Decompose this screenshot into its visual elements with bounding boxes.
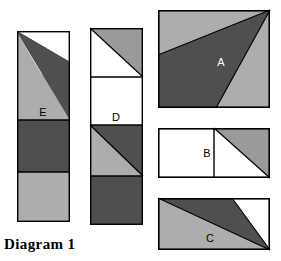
- shape-E: E: [17, 31, 70, 222]
- shape-A: A: [158, 10, 270, 108]
- diagram-caption: Diagram 1: [4, 236, 76, 253]
- shape-C-label: C: [206, 232, 214, 244]
- shape-D-band-4: [90, 176, 143, 225]
- shape-E-band-4: [17, 172, 70, 222]
- diagram-canvas: E D: [0, 0, 281, 261]
- shape-D: D: [90, 28, 143, 225]
- shape-D-label: D: [112, 111, 120, 123]
- shape-A-label: A: [217, 56, 225, 68]
- shape-E-band-3: [17, 120, 70, 172]
- shape-C: C: [158, 198, 270, 250]
- shape-B: B: [158, 128, 270, 178]
- shape-E-label: E: [39, 106, 46, 118]
- shape-B-label: B: [203, 147, 210, 159]
